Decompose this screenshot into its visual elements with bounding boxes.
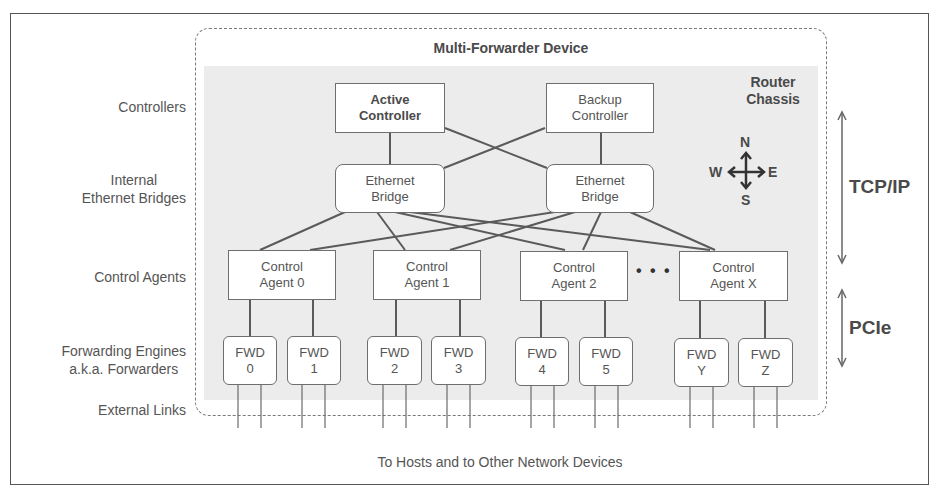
controller-label-line1: Backup bbox=[578, 92, 621, 108]
fwd-id: 1 bbox=[310, 361, 317, 377]
agent-label-line1: Control bbox=[406, 259, 448, 275]
fwd-id: 0 bbox=[246, 361, 253, 377]
protocol-tcpip: TCP/IP bbox=[849, 176, 910, 198]
fwd-label: FWD bbox=[235, 345, 265, 361]
fwd-label: FWD bbox=[591, 346, 621, 362]
compass-north: N bbox=[740, 134, 750, 150]
compass-icon bbox=[729, 153, 764, 188]
agent-label-line2: Agent 1 bbox=[405, 275, 450, 291]
fwd-id: 5 bbox=[602, 362, 609, 378]
fwd-z: FWD Z bbox=[738, 338, 793, 387]
fwd-1: FWD 1 bbox=[287, 336, 341, 385]
bridge-label-line2: Bridge bbox=[581, 189, 619, 205]
controller-label-line2: Controller bbox=[572, 108, 628, 124]
row-label-forwarders: Forwarding Engines a.k.a. Forwarders bbox=[61, 342, 186, 378]
agent-label-line1: Control bbox=[553, 260, 595, 276]
row-label-bridges: Internal Ethernet Bridges bbox=[82, 171, 186, 207]
ethernet-bridge-1: Ethernet Bridge bbox=[335, 164, 445, 213]
bridge-label-line1: Ethernet bbox=[575, 173, 624, 189]
agent-label-line1: Control bbox=[261, 259, 303, 275]
fwd-2: FWD 2 bbox=[367, 336, 422, 385]
fwd-id: Z bbox=[762, 363, 770, 379]
fwd-4: FWD 4 bbox=[515, 337, 569, 386]
fwd-y: FWD Y bbox=[674, 338, 729, 387]
control-agent-0: Control Agent 0 bbox=[228, 250, 336, 300]
fwd-label: FWD bbox=[751, 347, 781, 363]
fwd-label: FWD bbox=[444, 345, 474, 361]
row-label-controllers: Controllers bbox=[118, 98, 186, 116]
compass-south: S bbox=[741, 192, 750, 208]
row-label-agents: Control Agents bbox=[94, 268, 186, 286]
active-controller: Active Controller bbox=[335, 83, 445, 133]
ethernet-bridge-2: Ethernet Bridge bbox=[546, 164, 654, 213]
row-label-bridges-line1: Internal bbox=[82, 171, 186, 189]
row-label-forwarders-line1: Forwarding Engines bbox=[61, 342, 186, 360]
compass-east: E bbox=[768, 164, 777, 180]
fwd-label: FWD bbox=[527, 346, 557, 362]
backup-controller: Backup Controller bbox=[546, 83, 654, 133]
fwd-id: Y bbox=[697, 363, 706, 379]
control-agent-x: Control Agent X bbox=[679, 251, 788, 301]
fwd-label: FWD bbox=[687, 347, 717, 363]
controller-label-line1: Active bbox=[370, 92, 409, 108]
agent-label-line1: Control bbox=[713, 260, 755, 276]
fwd-5: FWD 5 bbox=[579, 337, 633, 386]
compass-west: W bbox=[709, 164, 722, 180]
fwd-id: 4 bbox=[538, 362, 545, 378]
fwd-0: FWD 0 bbox=[223, 336, 277, 385]
fwd-label: FWD bbox=[380, 345, 410, 361]
footer-caption: To Hosts and to Other Network Devices bbox=[0, 454, 947, 470]
control-agent-1: Control Agent 1 bbox=[373, 250, 481, 300]
fwd-id: 3 bbox=[455, 361, 462, 377]
controller-label-line2: Controller bbox=[359, 108, 421, 124]
row-label-external-links: External Links bbox=[98, 401, 186, 419]
fwd-3: FWD 3 bbox=[431, 336, 486, 385]
fwd-id: 2 bbox=[391, 361, 398, 377]
row-label-bridges-line2: Ethernet Bridges bbox=[82, 189, 186, 207]
fwd-label: FWD bbox=[299, 345, 329, 361]
ellipsis: • • • bbox=[636, 262, 672, 280]
row-label-forwarders-line2: a.k.a. Forwarders bbox=[61, 360, 186, 378]
agent-label-line2: Agent 2 bbox=[552, 276, 597, 292]
protocol-pcie: PCIe bbox=[849, 317, 891, 339]
bridge-label-line2: Bridge bbox=[371, 189, 409, 205]
agent-label-line2: Agent X bbox=[710, 276, 756, 292]
bridge-label-line1: Ethernet bbox=[365, 173, 414, 189]
control-agent-2: Control Agent 2 bbox=[520, 251, 628, 301]
agent-label-line2: Agent 0 bbox=[260, 275, 305, 291]
